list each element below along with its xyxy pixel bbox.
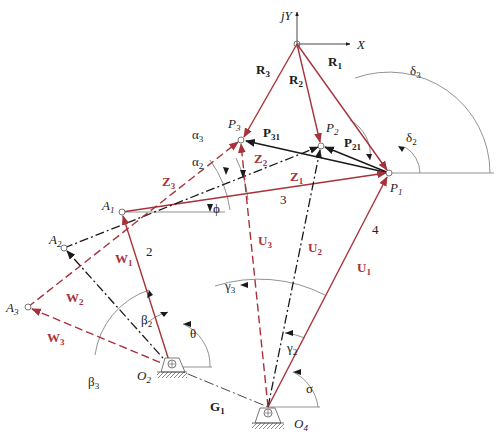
label-beta2: β2 bbox=[141, 312, 152, 329]
label-alpha3: α3 bbox=[192, 127, 204, 144]
label-p1: P1 bbox=[389, 180, 402, 197]
label-p31: P31 bbox=[263, 125, 280, 142]
r-vectors bbox=[244, 44, 387, 170]
label-p3: P3 bbox=[227, 116, 241, 133]
label-a3: A3 bbox=[5, 300, 19, 317]
label-beta3: β3 bbox=[88, 374, 100, 391]
label-a2: A2 bbox=[48, 232, 62, 249]
label-z1: Z1 bbox=[290, 169, 304, 186]
label-g1: G1 bbox=[210, 399, 225, 416]
label-theta: θ bbox=[190, 326, 196, 341]
ground-pivot-o4 bbox=[252, 408, 284, 429]
x-axis-label: X bbox=[356, 37, 366, 52]
label-gamma2: γ2 bbox=[286, 340, 297, 357]
y-axis-label: jY bbox=[279, 8, 294, 23]
label-w3: W3 bbox=[47, 330, 65, 347]
label-phi: ϕ bbox=[213, 201, 220, 216]
label-link-2: 2 bbox=[146, 244, 153, 259]
label-sigma: σ bbox=[306, 381, 313, 396]
point-labels: P1 P2 P3 A1 A2 A3 O2 O4 bbox=[5, 116, 402, 433]
label-r1: R1 bbox=[328, 54, 342, 71]
label-p2: P2 bbox=[325, 120, 339, 137]
label-gamma3: γ3 bbox=[224, 278, 236, 295]
label-u2: U2 bbox=[308, 240, 322, 257]
label-p21: P21 bbox=[344, 135, 361, 152]
linkage-diagram: jY X bbox=[0, 0, 501, 438]
joints bbox=[25, 137, 392, 310]
label-delta3: δ3 bbox=[410, 63, 421, 80]
label-u3: U3 bbox=[258, 233, 272, 250]
ground-pivot-o2 bbox=[157, 358, 187, 378]
label-link-3: 3 bbox=[280, 192, 287, 207]
displacement-vectors bbox=[246, 141, 389, 173]
label-delta2: δ2 bbox=[406, 130, 417, 147]
label-r3: R3 bbox=[256, 62, 270, 79]
label-o4: O4 bbox=[294, 416, 308, 433]
label-alpha2: α2 bbox=[192, 154, 203, 171]
label-a1: A1 bbox=[101, 198, 114, 215]
label-o2: O2 bbox=[137, 368, 151, 385]
label-z3: Z3 bbox=[162, 174, 176, 191]
label-link-4: 4 bbox=[372, 222, 379, 237]
label-w2: W2 bbox=[66, 290, 84, 307]
coordinate-axes: jY X bbox=[279, 8, 366, 52]
label-z2: Z2 bbox=[254, 151, 268, 168]
label-r2: R2 bbox=[289, 72, 303, 89]
label-w1: W1 bbox=[115, 251, 133, 268]
label-u1: U1 bbox=[357, 260, 371, 277]
